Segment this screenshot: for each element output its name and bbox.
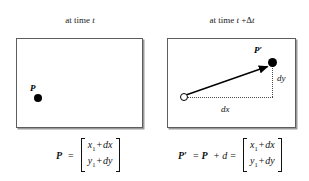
matrix-row-1: x1+dx — [250, 139, 275, 155]
matrix-bracket-left — [81, 138, 85, 172]
matrix-row-2: y1+dy — [88, 155, 113, 171]
matrix-row-1: x1+dx — [88, 139, 113, 155]
left-formula-matrix: x1+dx y1+dy — [81, 138, 120, 172]
right-formula-equals-2: = — [230, 150, 236, 161]
right-formula-lhs: P′ — [178, 150, 187, 161]
dx-label: dx — [221, 104, 230, 114]
row1-delta: dx — [265, 139, 274, 150]
row2-plus: + — [95, 155, 103, 166]
matrix-bracket-left — [243, 138, 247, 172]
point-label-p-prime: P′ — [254, 45, 262, 55]
matrix-bracket-right — [116, 138, 120, 172]
left-formula: P = x1+dx y1+dy — [56, 138, 120, 172]
right-formula-plus: + — [214, 150, 220, 161]
displacement-vector-figure: at time t at time t +Δt P P′ dy dx P = — [0, 0, 309, 181]
right-formula-term-1: P — [202, 150, 208, 161]
row2-delta: dy — [103, 155, 112, 166]
matrix-rows: x1+dx y1+dy — [87, 138, 114, 172]
left-formula-equals: = — [68, 150, 74, 161]
row1-plus: + — [95, 139, 103, 150]
right-formula-matrix: x1+dx y1+dy — [243, 138, 282, 172]
matrix-row-2: y1+dy — [250, 155, 275, 171]
right-formula-term-2: d — [222, 150, 227, 161]
left-formula-lhs: P — [56, 150, 62, 161]
right-formula-equals-1: = — [193, 150, 199, 161]
matrix-rows: x1+dx y1+dy — [249, 138, 276, 172]
dy-label: dy — [277, 73, 286, 83]
origin-marker-open-circle — [180, 93, 188, 101]
point-marker-p-prime — [268, 58, 277, 67]
row1-delta: dx — [103, 139, 112, 150]
right-formula: P′ = P + d = x1+dx y1+dy — [178, 138, 282, 172]
row2-delta: dy — [265, 155, 274, 166]
matrix-bracket-right — [278, 138, 282, 172]
